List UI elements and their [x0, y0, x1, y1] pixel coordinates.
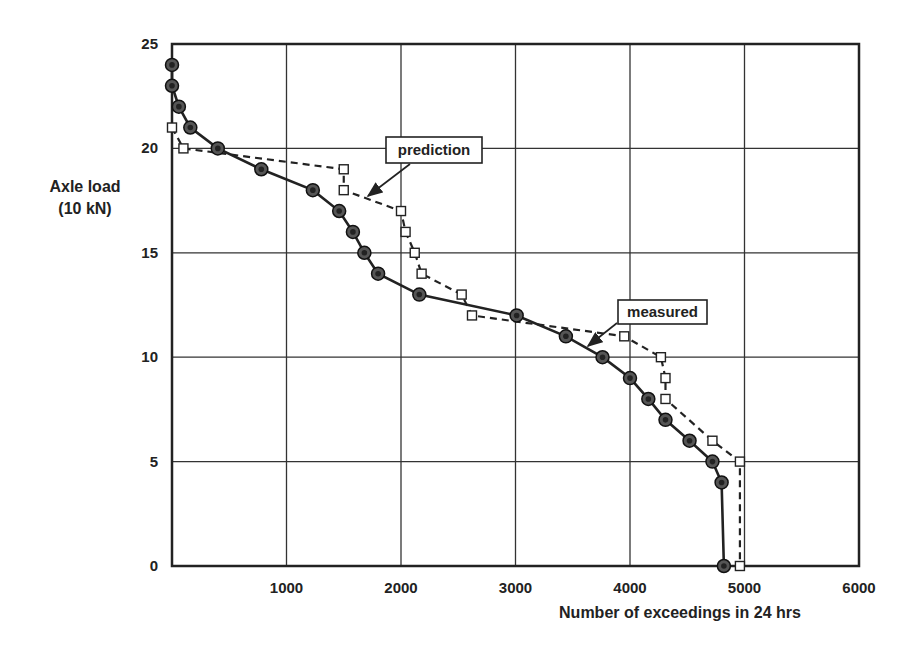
prediction-marker [397, 207, 406, 216]
x-tick-label: 1000 [270, 579, 303, 596]
prediction-marker [339, 186, 348, 195]
x-tick-label: 5000 [728, 579, 761, 596]
measured-marker-core [514, 313, 520, 319]
prediction-marker [708, 436, 717, 445]
measured-marker-core [375, 271, 381, 277]
y-tick-label: 5 [150, 453, 158, 470]
x-axis-title: Number of exceedings in 24 hrs [559, 604, 801, 621]
figure-caption [120, 646, 820, 657]
prediction-marker [735, 457, 744, 466]
measured-marker-core [362, 250, 368, 256]
measured-marker-core [350, 229, 356, 235]
prediction-marker [661, 374, 670, 383]
measured-label: measured [627, 303, 698, 320]
measured-marker-core [336, 208, 342, 214]
x-tick-label: 2000 [384, 579, 417, 596]
x-tick-label: 4000 [613, 579, 646, 596]
y-tick-label: 10 [141, 348, 158, 365]
measured-marker-core [646, 396, 652, 402]
prediction-arrow [368, 164, 410, 196]
measured-marker-core [188, 125, 194, 131]
prediction-marker [457, 290, 466, 299]
measured-marker-core [417, 292, 423, 298]
x-tick-label: 3000 [499, 579, 532, 596]
measured-marker-core [169, 62, 175, 68]
measured-marker-core [259, 166, 265, 172]
measured-marker-core [600, 354, 606, 360]
measured-marker-core [687, 438, 693, 444]
y-axis-title-line2: (10 kN) [58, 200, 111, 217]
y-tick-label: 15 [141, 244, 158, 261]
measured-marker-core [719, 480, 725, 486]
measured-marker-core [310, 187, 316, 193]
prediction-marker [620, 332, 629, 341]
y-tick-label: 0 [150, 557, 158, 574]
annotations: predictionmeasured [368, 137, 707, 346]
prediction-marker [417, 269, 426, 278]
prediction-marker [656, 353, 665, 362]
x-tick-label: 6000 [842, 579, 875, 596]
prediction-line [172, 128, 740, 566]
prediction-marker [168, 123, 177, 132]
prediction-marker [467, 311, 476, 320]
prediction-marker [410, 248, 419, 257]
y-axis-title-line1: Axle load [49, 178, 120, 195]
measured-marker-core [563, 334, 569, 340]
measured-marker-core [215, 146, 221, 152]
measured-marker-core [663, 417, 669, 423]
y-tick-label: 20 [141, 139, 158, 156]
prediction-marker [735, 562, 744, 571]
prediction-marker [661, 394, 670, 403]
series-prediction [168, 123, 745, 570]
y-tick-label: 25 [141, 35, 158, 52]
measured-marker-core [710, 459, 716, 465]
measured-marker-core [176, 104, 182, 110]
measured-marker-core [627, 375, 633, 381]
prediction-marker [179, 144, 188, 153]
prediction-label: prediction [398, 141, 471, 158]
measured-marker-core [169, 83, 175, 89]
chart: 100020003000400050006000 0510152025 pred… [0, 0, 917, 657]
measured-marker-core [721, 563, 727, 569]
grid-lines [172, 44, 859, 566]
x-axis-ticks: 100020003000400050006000 [270, 579, 876, 596]
prediction-marker [339, 165, 348, 174]
prediction-marker [401, 227, 410, 236]
y-axis-ticks: 0510152025 [141, 35, 158, 574]
